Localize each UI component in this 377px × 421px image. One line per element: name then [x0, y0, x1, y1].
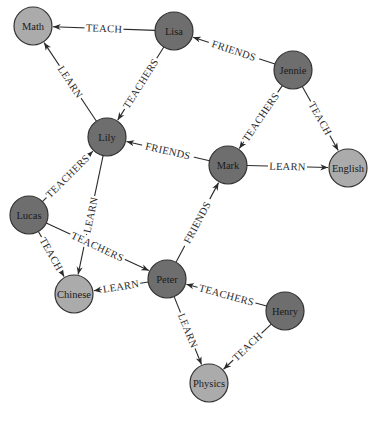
- edge-lily-math: LEARN: [44, 43, 96, 122]
- edge-lucas-lily: TEACHERS: [42, 151, 93, 202]
- node-peter[interactable]: Peter: [148, 260, 186, 298]
- edge-label-group: FRIENDS: [179, 196, 215, 248]
- edge-label-group: LEARN: [101, 277, 141, 295]
- edge-label-group: TEACHERS: [68, 229, 127, 265]
- edge-peter-chinese: LEARN: [94, 277, 148, 295]
- edge-label-group: TEACH: [305, 99, 335, 139]
- edge-label: TEACHERS: [240, 91, 281, 144]
- edge-lisa-lily: TEACHERS: [118, 47, 164, 120]
- edge-label-group: TEACH: [36, 234, 66, 274]
- edge-label: FRIENDS: [182, 200, 213, 246]
- edge-lily-chinese: LEARN: [78, 156, 103, 275]
- node-label: Physics: [193, 378, 225, 389]
- edge-label: LEARN: [81, 196, 99, 234]
- edge-label: TEACHERS: [121, 57, 161, 111]
- edge-label-group: LEARN: [54, 62, 86, 101]
- edge-label: TEACH: [37, 235, 65, 272]
- edge-peter-physics: LEARN: [174, 297, 201, 365]
- edge-label: FRIENDS: [210, 38, 257, 63]
- edge-lucas-chinese: TEACH: [36, 232, 66, 277]
- node-label: Mark: [217, 160, 240, 171]
- node-lisa[interactable]: Lisa: [155, 12, 193, 50]
- edge-label-group: LEARN: [175, 310, 201, 351]
- node-label: Lisa: [165, 26, 183, 37]
- node-label: Math: [22, 21, 45, 32]
- node-chinese[interactable]: Chinese: [55, 275, 93, 313]
- edge-lisa-math: TEACH: [53, 22, 155, 35]
- edge-label: TEACH: [230, 330, 264, 363]
- node-mark[interactable]: Mark: [209, 146, 247, 184]
- node-label: Lucas: [16, 210, 41, 221]
- edge-label: TEACH: [307, 100, 335, 137]
- edge-jennie-mark: TEACHERS: [239, 86, 283, 149]
- edge-label: LEARN: [269, 161, 306, 173]
- node-label: English: [332, 163, 365, 174]
- edge-peter-mark: FRIENDS: [176, 183, 219, 263]
- node-english[interactable]: English: [329, 149, 367, 187]
- node-lucas[interactable]: Lucas: [10, 196, 48, 234]
- edge-mark-lily: FRIENDS: [126, 139, 209, 163]
- edge-jennie-english: TEACH: [302, 87, 338, 151]
- edge-label-group: FRIENDS: [207, 37, 261, 65]
- edge-label: TEACHERS: [198, 282, 256, 307]
- edge-label: TEACHERS: [70, 230, 126, 264]
- edge-henry-physics: TEACH: [224, 324, 272, 369]
- node-label: Chinese: [57, 289, 91, 300]
- edge-label-group: TEACH: [229, 329, 266, 365]
- edge-label: LEARN: [176, 312, 200, 350]
- node-physics[interactable]: Physics: [190, 364, 228, 402]
- node-label: Lily: [98, 132, 116, 143]
- edge-label-group: TEACHERS: [120, 55, 162, 112]
- node-henry[interactable]: Henry: [266, 292, 304, 330]
- edge-henry-peter: TEACHERS: [186, 281, 266, 308]
- edge-label-group: LEARN: [81, 195, 101, 236]
- edge-label-group: FRIENDS: [141, 139, 195, 163]
- node-label: Peter: [156, 274, 178, 285]
- edge-label-group: TEACH: [84, 22, 123, 35]
- edge-label-group: LEARN: [268, 160, 307, 173]
- node-lily[interactable]: Lily: [88, 118, 126, 156]
- edge-label: LEARN: [56, 64, 85, 101]
- edge-label: FRIENDS: [144, 141, 191, 162]
- edge-label-group: TEACHERS: [196, 281, 257, 308]
- edge-mark-english: LEARN: [247, 160, 328, 173]
- edge-label: TEACHERS: [44, 152, 92, 200]
- edge-label: TEACH: [86, 22, 123, 34]
- edge-label-group: TEACHERS: [239, 89, 283, 145]
- node-label: Henry: [272, 306, 299, 317]
- knowledge-graph: TEACHLEARNTEACHERSFRIENDSTEACHERSTEACHFR…: [0, 0, 377, 421]
- edge-jennie-lisa: FRIENDS: [193, 37, 275, 65]
- node-label: Jennie: [280, 65, 307, 76]
- edge-label-group: TEACHERS: [42, 151, 93, 202]
- node-jennie[interactable]: Jennie: [274, 51, 312, 89]
- node-math[interactable]: Math: [14, 7, 52, 45]
